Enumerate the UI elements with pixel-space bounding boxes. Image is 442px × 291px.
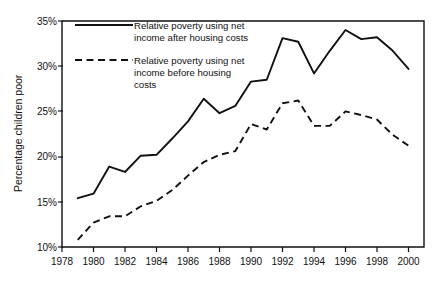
x-tick-label-1984: 1984 <box>145 256 168 267</box>
x-tick-label-1986: 1986 <box>177 256 200 267</box>
y-tick-label-10: 10% <box>37 242 57 253</box>
x-tick-label-1980: 1980 <box>82 256 105 267</box>
line-chart: Percentage children poor 35% 30% 25% 20%… <box>0 0 442 291</box>
x-tick-label-1990: 1990 <box>240 256 263 267</box>
x-tick-label-1988: 1988 <box>208 256 231 267</box>
y-tick-label-30: 30% <box>37 61 57 72</box>
y-tick-label-25: 25% <box>37 106 57 117</box>
legend-label-1-line-1: income before housing <box>134 67 231 78</box>
legend: Relative poverty using net income after … <box>75 20 248 90</box>
x-tick-label-1992: 1992 <box>271 256 294 267</box>
x-tick-label-2000: 2000 <box>397 256 420 267</box>
x-tick-label-1994: 1994 <box>303 256 326 267</box>
y-tick-label-15: 15% <box>37 197 57 208</box>
chart-container: Percentage children poor 35% 30% 25% 20%… <box>0 0 442 291</box>
y-tick-label-35: 35% <box>37 16 57 27</box>
x-tick-label-1996: 1996 <box>334 256 357 267</box>
x-tick-label-1978: 1978 <box>51 256 74 267</box>
legend-label-1-line-0: Relative poverty using net <box>134 55 245 66</box>
y-tick-label-20: 20% <box>37 151 57 162</box>
legend-label-1-line-2: costs <box>134 79 157 90</box>
x-tick-label-1982: 1982 <box>114 256 137 267</box>
legend-label-0-line-1: income after housing costs <box>134 32 248 43</box>
x-tick-label-1998: 1998 <box>366 256 389 267</box>
legend-label-0-line-0: Relative poverty using net <box>134 20 245 31</box>
y-axis-title: Percentage children poor <box>12 74 24 192</box>
x-ticks <box>62 247 409 252</box>
